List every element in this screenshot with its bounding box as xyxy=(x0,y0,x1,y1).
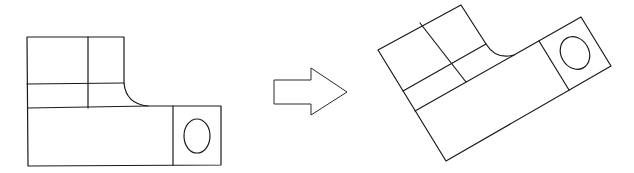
transform-arrow xyxy=(274,68,347,115)
upper-horizontal-line xyxy=(27,83,124,84)
right-arrow-icon xyxy=(274,68,347,115)
figure-original xyxy=(27,37,221,166)
outline xyxy=(378,5,611,161)
hole-ellipse xyxy=(184,119,210,153)
upper-horizontal-line xyxy=(403,44,486,91)
hole-ellipse xyxy=(555,31,596,74)
upper-vertical-divider xyxy=(420,23,466,82)
figure-rotated xyxy=(378,5,611,161)
diagram-canvas xyxy=(0,0,634,173)
outline xyxy=(27,37,221,166)
base-top-line xyxy=(415,55,514,111)
tab-divider xyxy=(539,41,569,90)
